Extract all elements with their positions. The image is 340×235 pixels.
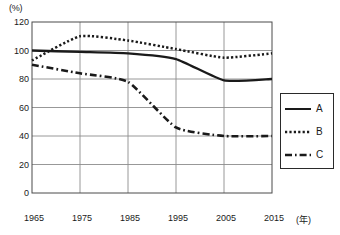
legend-label: A xyxy=(316,104,323,114)
legend-swatch-solid-icon xyxy=(284,103,312,115)
series-line-c xyxy=(32,65,272,137)
series-line-b xyxy=(32,36,272,61)
grid-lines xyxy=(32,22,272,193)
legend-swatch-dotted-icon xyxy=(284,126,312,138)
legend-entry-a: A xyxy=(281,98,335,120)
legend-swatch-dashdot-icon xyxy=(284,149,312,161)
legend-entry-b: B xyxy=(281,121,335,143)
legend-entry-c: C xyxy=(281,144,335,166)
series-line-a xyxy=(32,51,272,81)
series-layer xyxy=(32,36,272,136)
chart-figure: (%) 120 100 80 60 40 20 0 1965 1975 1985… xyxy=(0,0,340,235)
legend: A B C xyxy=(280,93,334,169)
legend-label: B xyxy=(316,127,323,137)
legend-label: C xyxy=(316,150,323,160)
